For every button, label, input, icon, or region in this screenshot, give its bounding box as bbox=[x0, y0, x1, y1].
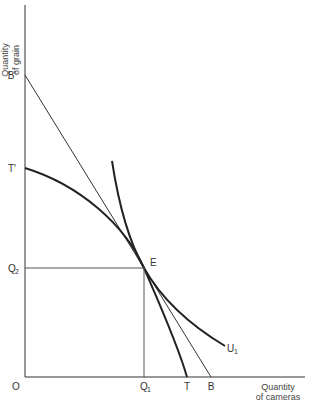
budget-line bbox=[25, 75, 211, 377]
label-u1-sub: 1 bbox=[234, 348, 238, 355]
diagram-canvas: Quantity of grain Quantity of cameras O … bbox=[0, 0, 313, 402]
x-axis-title-line2: of cameras bbox=[256, 392, 301, 402]
label-b: B bbox=[208, 381, 215, 392]
label-q2-sub: 2 bbox=[15, 268, 19, 275]
origin-label: O bbox=[12, 381, 20, 392]
production-possibility-frontier bbox=[25, 168, 187, 377]
label-q1: Q 1 bbox=[140, 381, 151, 393]
label-b-prime: B' bbox=[8, 70, 17, 81]
label-t: T bbox=[184, 381, 190, 392]
label-t-prime: T' bbox=[8, 163, 16, 174]
label-u1: U 1 bbox=[227, 343, 238, 355]
label-q2: Q 2 bbox=[8, 263, 19, 275]
label-q1-sub: 1 bbox=[147, 386, 151, 393]
label-e: E bbox=[150, 257, 157, 268]
indifference-curve-u1 bbox=[112, 161, 225, 346]
x-axis-title-line1: Quantity bbox=[261, 382, 295, 392]
